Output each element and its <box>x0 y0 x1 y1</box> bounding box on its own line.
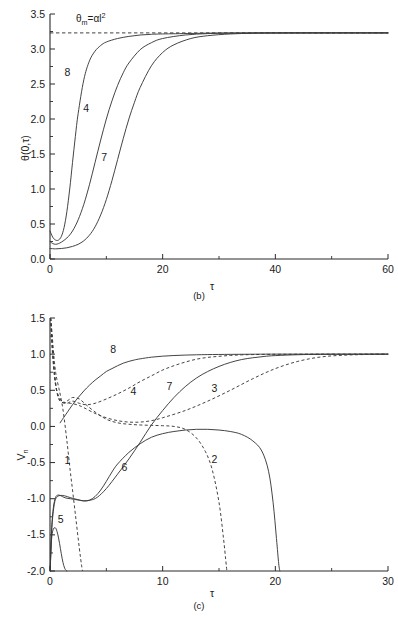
y-tick-label: -0.5 <box>27 456 45 468</box>
y-tick-label: 1.5 <box>30 312 45 324</box>
curve-label-4: 4 <box>130 385 136 397</box>
panel-c-curves <box>50 318 388 571</box>
curve-label-6: 6 <box>121 461 127 473</box>
y-tick-label: 0.5 <box>30 218 45 230</box>
annot-superscript: 2 <box>101 11 105 20</box>
curve-label-7: 7 <box>101 151 107 163</box>
y-tick-label: 1.0 <box>30 348 45 360</box>
panel-b-xlabel: τ <box>210 280 215 292</box>
y-tick-label: 0.0 <box>30 253 45 265</box>
y-tick-label: 0.5 <box>30 384 45 396</box>
x-tick-label: 30 <box>382 575 394 587</box>
y-tick-label: -1.0 <box>27 492 45 504</box>
y-tick-label: 3.0 <box>30 43 45 55</box>
x-tick-label: 20 <box>269 575 281 587</box>
curve-label-8: 8 <box>65 66 71 78</box>
annot-equals: =αl <box>88 13 102 24</box>
curve-label-4: 4 <box>83 102 89 114</box>
curve-label-3: 3 <box>212 382 218 394</box>
curve-label-8: 8 <box>110 343 116 355</box>
y-tick-label: 3.5 <box>30 8 45 20</box>
x-tick-label: 10 <box>157 575 169 587</box>
panel-b-curves <box>50 33 388 249</box>
curve-8 <box>50 33 388 241</box>
y-tick-label: 0.0 <box>30 420 45 432</box>
y-tick-label: 2.0 <box>30 113 45 125</box>
x-tick-label: 60 <box>382 263 394 275</box>
figure-container: 0.00.51.01.52.02.53.03.50204060 847 θ(0,… <box>0 0 398 617</box>
panel-b-caption: (b) <box>193 290 205 301</box>
curve-3 <box>51 318 388 422</box>
curve-4 <box>50 33 388 244</box>
curve-6 <box>50 429 280 571</box>
curve-5 <box>50 528 67 571</box>
curve-label-2: 2 <box>212 453 218 465</box>
x-tick-label: 20 <box>157 263 169 275</box>
panel-c-ylabel-sub: n <box>21 449 30 453</box>
y-tick-label: 1.5 <box>30 148 45 160</box>
panel-c-tick-labels: -2.0-1.5-1.0-0.50.00.51.01.50102030 <box>27 312 394 587</box>
y-tick-label: 1.0 <box>30 183 45 195</box>
curve-label-1: 1 <box>65 454 71 466</box>
panel-c-curve-labels: 12345678 <box>58 343 218 525</box>
y-tick-label: 2.5 <box>30 78 45 90</box>
x-tick-label: 0 <box>47 575 53 587</box>
x-tick-label: 0 <box>47 263 53 275</box>
figure-svg: 0.00.51.01.52.02.53.03.50204060 847 θ(0,… <box>0 0 398 617</box>
panel-c-xlabel: τ <box>210 587 215 599</box>
panel-b: 0.00.51.01.52.02.53.03.50204060 847 θ(0,… <box>19 8 394 301</box>
curve-4 <box>51 318 388 405</box>
panel-c-caption: (c) <box>193 600 204 611</box>
svg-text:θm=αl2: θm=αl2 <box>76 11 105 27</box>
curve-7 <box>50 354 388 571</box>
curve-1 <box>51 318 83 571</box>
curve-label-7: 7 <box>167 380 173 392</box>
y-tick-label: -1.5 <box>27 528 45 540</box>
panel-b-tick-labels: 0.00.51.01.52.02.53.03.50204060 <box>30 8 394 275</box>
panel-b-ylabel: θ(0,τ) <box>19 135 31 161</box>
curve-label-5: 5 <box>58 513 64 525</box>
y-tick-label: -2.0 <box>27 565 45 577</box>
panel-b-annotation: θm=αl2 <box>76 11 105 27</box>
panel-c: -2.0-1.5-1.0-0.50.00.51.01.50102030 1234… <box>15 312 394 611</box>
panel-c-ylabel: V <box>15 453 27 460</box>
panel-b-axes <box>50 14 388 259</box>
panel-b-curve-labels: 847 <box>65 66 108 163</box>
x-tick-label: 40 <box>269 263 281 275</box>
